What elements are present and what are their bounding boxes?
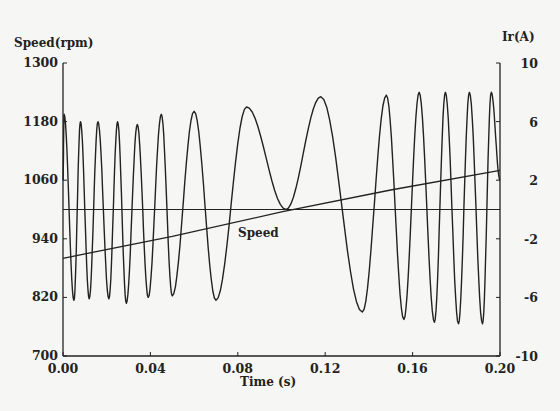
y2-axis-label: Ir(A) [502, 30, 535, 44]
chart: Speed(rpm) Ir(A) Time (s) 0.000.040.080.… [0, 0, 560, 411]
y-tick-label: 940 [32, 231, 58, 246]
x-axis-label: Time (s) [240, 375, 296, 389]
y-tick-label: 820 [32, 289, 58, 304]
y-tick-label: 700 [32, 348, 58, 363]
x-tick-label: 0.20 [485, 361, 516, 376]
y-tick-label: 1060 [23, 172, 58, 187]
y2-tick-label: 2 [529, 173, 538, 188]
rotor-current-line [63, 92, 500, 323]
x-tick-label: 0.04 [135, 361, 166, 376]
y-tick-label: 1300 [23, 55, 58, 70]
speed-annotation: Speed [238, 226, 279, 240]
x-tick-label: 0.16 [397, 361, 428, 376]
y2-tick-label: -10 [515, 349, 538, 364]
y-axis-label: Speed(rpm) [14, 36, 93, 50]
y2-tick-label: -2 [524, 232, 538, 247]
x-tick-label: 0.08 [223, 361, 254, 376]
x-tick-label: 0.12 [310, 361, 340, 376]
y2-tick-label: 10 [521, 56, 539, 71]
y-tick-label: 1180 [23, 114, 58, 129]
speed-line [63, 170, 500, 258]
y2-tick-label: -6 [524, 290, 538, 305]
y2-tick-label: 6 [529, 115, 538, 130]
x-tick-label: 0.00 [48, 361, 79, 376]
